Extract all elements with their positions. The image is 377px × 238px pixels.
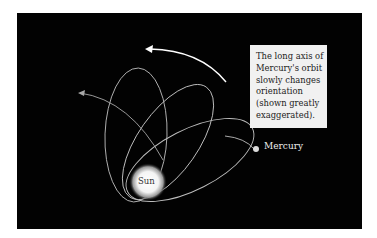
mercury-icon (253, 146, 259, 152)
sun-label: Sun (138, 176, 155, 186)
note-line: slowly changes (256, 75, 327, 87)
annotation-box: The long axis of Mercury's orbit slowly … (250, 45, 327, 128)
orbit-ellipse-2 (105, 70, 231, 214)
note-line: The long axis of (256, 51, 327, 63)
precession-arrow-icon (145, 45, 226, 82)
orbit-ellipse-3 (114, 101, 266, 218)
mercury-path (225, 136, 254, 149)
note-line: exaggerated). (256, 110, 327, 122)
mercury-label: Mercury (264, 141, 303, 151)
note-line: (shown greatly (256, 98, 327, 110)
note-line: Mercury's orbit (256, 63, 327, 75)
note-line: orientation (256, 86, 327, 98)
